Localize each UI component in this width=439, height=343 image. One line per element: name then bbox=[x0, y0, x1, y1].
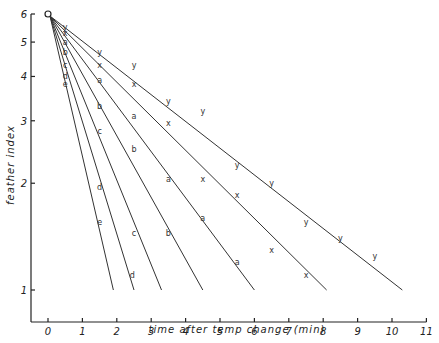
data-point-y: y bbox=[338, 234, 343, 243]
data-point-b: b bbox=[97, 102, 102, 111]
data-point-c: c bbox=[97, 127, 101, 136]
series-lines bbox=[50, 16, 402, 290]
data-point-a: a bbox=[166, 175, 171, 184]
data-point-c: c bbox=[132, 229, 136, 238]
data-point-e: e bbox=[63, 80, 68, 89]
x-tick-label: 1 bbox=[79, 326, 85, 337]
data-point-b: b bbox=[166, 229, 171, 238]
y-tick-label: 1 bbox=[21, 285, 27, 296]
data-point-a: a bbox=[97, 76, 102, 85]
data-point-x: x bbox=[304, 271, 309, 280]
chart-canvas: 01234567891011123456 eedddcccbbbbaaaaaax… bbox=[0, 0, 439, 343]
y-axis-label: feather index bbox=[5, 125, 16, 205]
data-point-x: x bbox=[200, 175, 205, 184]
data-point-d: d bbox=[97, 183, 102, 192]
x-axis-label: time after temp change (min) bbox=[149, 324, 326, 335]
data-point-a: a bbox=[63, 38, 68, 47]
data-point-b: b bbox=[131, 145, 136, 154]
y-tick-label: 6 bbox=[21, 9, 27, 20]
series-line-b bbox=[50, 16, 203, 290]
data-point-x: x bbox=[235, 191, 240, 200]
x-tick-label: 11 bbox=[420, 326, 433, 337]
data-point-y: y bbox=[63, 23, 68, 32]
data-point-y: y bbox=[132, 61, 137, 70]
y-tick-label: 4 bbox=[21, 71, 27, 82]
data-point-a: a bbox=[235, 258, 240, 267]
data-point-y: y bbox=[200, 107, 205, 116]
x-tick-label: 9 bbox=[354, 326, 360, 337]
data-point-y: y bbox=[97, 48, 102, 57]
data-point-y: y bbox=[372, 252, 377, 261]
x-tick-label: 0 bbox=[45, 326, 51, 337]
data-point-a: a bbox=[132, 112, 137, 121]
data-point-x: x bbox=[132, 80, 137, 89]
data-point-y: y bbox=[166, 97, 171, 106]
series-line-y bbox=[50, 16, 402, 290]
series-line-a bbox=[50, 16, 254, 290]
data-point-c: c bbox=[63, 61, 67, 70]
y-tick-label: 5 bbox=[21, 37, 27, 48]
x-tick-label: 10 bbox=[386, 326, 399, 337]
data-point-d: d bbox=[130, 271, 135, 280]
data-point-y: y bbox=[269, 179, 274, 188]
data-point-x: x bbox=[166, 119, 171, 128]
y-tick-label: 3 bbox=[21, 116, 27, 127]
data-point-e: e bbox=[97, 218, 102, 227]
x-tick-label: 2 bbox=[114, 326, 120, 337]
y-tick-label: 2 bbox=[21, 178, 27, 189]
data-point-x: x bbox=[269, 246, 274, 255]
data-point-x: x bbox=[97, 61, 102, 70]
series-line-e bbox=[50, 16, 113, 290]
axes: 01234567891011123456 bbox=[21, 9, 433, 337]
data-point-a: a bbox=[200, 214, 205, 223]
data-point-y: y bbox=[235, 161, 240, 170]
series-line-c bbox=[50, 16, 162, 290]
data-point-d: d bbox=[63, 72, 68, 81]
data-point-y: y bbox=[304, 218, 309, 227]
data-point-b: b bbox=[63, 48, 68, 57]
